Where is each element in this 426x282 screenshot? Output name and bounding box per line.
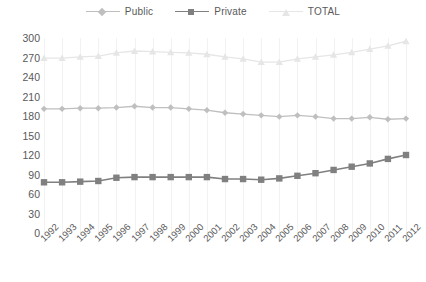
gridline-2012: [406, 38, 407, 233]
series-lines: [44, 38, 406, 233]
data-point-marker: [367, 114, 373, 120]
data-point-marker: [294, 173, 300, 179]
series-public: [41, 103, 409, 122]
data-point-marker: [258, 112, 264, 118]
data-point-marker: [186, 106, 192, 112]
legend-label: Private: [214, 6, 247, 17]
data-point-marker: [222, 110, 228, 116]
data-point-marker: [41, 106, 47, 112]
plot-area: [44, 38, 406, 233]
data-point-marker: [204, 107, 210, 113]
legend-item-public[interactable]: Public: [86, 6, 153, 17]
data-point-marker: [131, 174, 137, 180]
data-point-marker: [312, 113, 318, 119]
data-point-marker: [95, 105, 101, 111]
data-point-marker: [258, 177, 264, 183]
data-point-marker: [402, 38, 409, 44]
data-point-marker: [59, 179, 65, 185]
data-point-marker: [276, 175, 282, 181]
data-point-marker: [403, 152, 409, 158]
legend-swatch-square-icon: [175, 7, 209, 17]
data-point-marker: [240, 111, 246, 117]
legend-label: TOTAL: [308, 6, 340, 17]
data-point-marker: [168, 104, 174, 110]
legend-swatch-triangle-icon: [269, 7, 303, 17]
data-point-marker: [276, 113, 282, 119]
legend-label: Public: [125, 6, 153, 17]
data-point-marker: [349, 115, 355, 121]
data-point-marker: [77, 105, 83, 111]
y-tick-30: 30: [0, 208, 40, 220]
y-tick-0: 0: [0, 227, 40, 239]
y-tick-120: 120: [0, 149, 40, 161]
data-point-marker: [330, 167, 336, 173]
data-point-marker: [385, 156, 391, 162]
data-point-marker: [204, 174, 210, 180]
data-point-marker: [168, 174, 174, 180]
data-point-marker: [349, 164, 355, 170]
data-point-marker: [113, 175, 119, 181]
data-point-marker: [312, 170, 318, 176]
data-point-marker: [186, 174, 192, 180]
data-point-marker: [41, 179, 47, 185]
data-point-marker: [403, 115, 409, 121]
y-axis-tick-labels: 3002702402101801501209060300: [0, 38, 40, 233]
data-point-marker: [95, 178, 101, 184]
chart-legend: PublicPrivateTOTAL: [0, 6, 426, 17]
y-tick-90: 90: [0, 169, 40, 181]
y-tick-210: 210: [0, 91, 40, 103]
series-private: [41, 152, 409, 186]
y-tick-60: 60: [0, 188, 40, 200]
legend-item-total[interactable]: TOTAL: [269, 6, 340, 17]
data-point-marker: [149, 174, 155, 180]
data-point-marker: [294, 112, 300, 118]
data-point-marker: [113, 104, 119, 110]
y-tick-240: 240: [0, 71, 40, 83]
data-point-marker: [330, 115, 336, 121]
data-point-marker: [149, 104, 155, 110]
data-point-marker: [240, 176, 246, 182]
legend-swatch-diamond-icon: [86, 7, 120, 17]
legend-item-private[interactable]: Private: [175, 6, 247, 17]
y-tick-180: 180: [0, 110, 40, 122]
data-point-marker: [131, 103, 137, 109]
y-tick-300: 300: [0, 32, 40, 44]
x-axis-tick-labels: 1992199319941995199619971998199920002001…: [44, 236, 406, 282]
line-chart: PublicPrivateTOTAL 300270240210180150120…: [0, 0, 426, 282]
series-total: [40, 38, 409, 65]
data-point-marker: [385, 116, 391, 122]
data-point-marker: [222, 176, 228, 182]
data-point-marker: [77, 178, 83, 184]
y-tick-270: 270: [0, 52, 40, 64]
y-tick-150: 150: [0, 130, 40, 142]
data-point-marker: [59, 106, 65, 112]
data-point-marker: [367, 160, 373, 166]
